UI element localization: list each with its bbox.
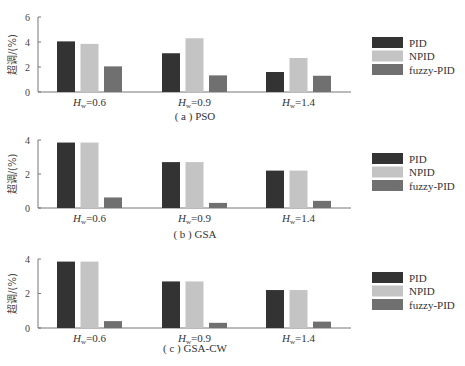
bar-pid bbox=[57, 143, 75, 208]
bar-pid bbox=[57, 41, 75, 92]
bar-npid bbox=[81, 44, 99, 92]
y-tick-label: 4 bbox=[25, 135, 30, 146]
y-axis-label: 超调/(%) bbox=[6, 34, 18, 75]
chart-panel-pso: 0246超调/(%)Hw=0.6Hw=0.9Hw=1.4( a ) PSOPID… bbox=[0, 0, 465, 120]
legend-swatch-fuzzy-pid bbox=[372, 180, 403, 191]
y-tick-label: 2 bbox=[25, 62, 30, 73]
bar-fuzzy-pid bbox=[209, 323, 227, 328]
chart-panel-gsa: 024超调/(%)Hw=0.6Hw=0.9Hw=1.4( b ) GSAPIDN… bbox=[0, 120, 465, 246]
x-category-label: Hw=0.6 bbox=[72, 332, 106, 346]
bar-chart-gsa-cw: 024超调/(%)Hw=0.6Hw=0.9Hw=1.4( c ) GSA-CWP… bbox=[0, 246, 465, 366]
bar-npid bbox=[186, 281, 204, 328]
panel-caption: ( c ) GSA-CW bbox=[163, 342, 227, 355]
y-tick-label: 0 bbox=[25, 203, 30, 214]
bar-npid bbox=[81, 143, 99, 208]
bar-fuzzy-pid bbox=[104, 321, 122, 328]
bar-npid bbox=[290, 290, 308, 328]
bar-pid bbox=[266, 171, 284, 208]
x-category-label: Hw=0.9 bbox=[177, 212, 211, 226]
chart-panel-gsa-cw: 024超调/(%)Hw=0.6Hw=0.9Hw=1.4( c ) GSA-CWP… bbox=[0, 246, 465, 366]
legend-label-pid: PID bbox=[409, 272, 427, 284]
bar-npid bbox=[290, 171, 308, 208]
x-category-label: Hw=0.6 bbox=[72, 212, 106, 226]
bar-fuzzy-pid bbox=[104, 197, 122, 208]
bar-fuzzy-pid bbox=[104, 66, 122, 92]
bar-fuzzy-pid bbox=[313, 201, 331, 208]
y-tick-label: 4 bbox=[25, 254, 30, 265]
panel-caption: ( b ) GSA bbox=[173, 228, 216, 241]
legend-label-npid: NPID bbox=[409, 285, 435, 297]
y-axis-label: 超调/(%) bbox=[6, 273, 18, 314]
legend-label-fuzzy-pid: fuzzy-PID bbox=[409, 180, 455, 192]
legend-label-fuzzy-pid: fuzzy-PID bbox=[409, 64, 455, 76]
legend-swatch-pid bbox=[372, 272, 403, 283]
bar-pid bbox=[162, 162, 180, 208]
legend-swatch-pid bbox=[372, 153, 403, 164]
bar-npid bbox=[186, 162, 204, 208]
bar-npid bbox=[186, 38, 204, 92]
x-category-label: Hw=0.6 bbox=[72, 96, 106, 110]
bar-fuzzy-pid bbox=[313, 322, 331, 328]
y-tick-label: 0 bbox=[25, 323, 30, 334]
bar-chart-pso: 0246超调/(%)Hw=0.6Hw=0.9Hw=1.4( a ) PSOPID… bbox=[0, 0, 465, 120]
legend-swatch-fuzzy-pid bbox=[372, 64, 403, 75]
bar-npid bbox=[81, 262, 99, 328]
bar-pid bbox=[162, 53, 180, 92]
bar-pid bbox=[266, 72, 284, 92]
bar-fuzzy-pid bbox=[209, 75, 227, 92]
x-category-label: Hw=1.4 bbox=[281, 96, 315, 110]
x-category-label: Hw=1.4 bbox=[281, 332, 315, 346]
legend-label-pid: PID bbox=[409, 37, 427, 49]
legend-swatch-fuzzy-pid bbox=[372, 299, 403, 310]
bar-fuzzy-pid bbox=[209, 203, 227, 208]
legend-label-fuzzy-pid: fuzzy-PID bbox=[409, 299, 455, 311]
y-axis-label: 超调/(%) bbox=[6, 154, 18, 195]
x-category-label: Hw=1.4 bbox=[281, 212, 315, 226]
legend-swatch-npid bbox=[372, 167, 403, 178]
y-tick-label: 6 bbox=[25, 12, 30, 23]
bar-npid bbox=[290, 58, 308, 92]
legend-label-pid: PID bbox=[409, 153, 427, 165]
x-category-label: Hw=0.9 bbox=[177, 96, 211, 110]
legend-swatch-npid bbox=[372, 286, 403, 297]
bar-fuzzy-pid bbox=[313, 76, 331, 92]
y-tick-label: 2 bbox=[25, 169, 30, 180]
y-tick-label: 0 bbox=[25, 87, 30, 98]
bar-pid bbox=[162, 281, 180, 328]
legend-swatch-npid bbox=[372, 51, 403, 62]
legend-swatch-pid bbox=[372, 37, 403, 48]
y-tick-label: 2 bbox=[25, 288, 30, 299]
y-tick-label: 4 bbox=[25, 37, 30, 48]
legend-label-npid: NPID bbox=[409, 166, 435, 178]
bar-pid bbox=[266, 290, 284, 328]
legend-label-npid: NPID bbox=[409, 50, 435, 62]
bar-pid bbox=[57, 262, 75, 328]
bar-chart-gsa: 024超调/(%)Hw=0.6Hw=0.9Hw=1.4( b ) GSAPIDN… bbox=[0, 120, 465, 246]
